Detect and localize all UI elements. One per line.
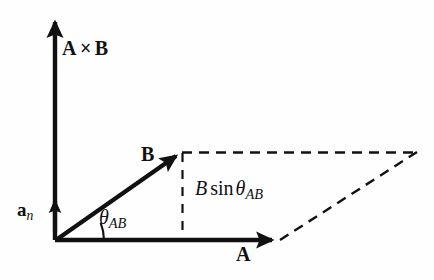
- cross-product-label: A×B: [62, 38, 109, 58]
- cross-product-vector-a-text: A: [62, 37, 77, 59]
- multiplication-sign-icon: ×: [77, 37, 95, 59]
- projection-magnitude-text: B: [195, 177, 207, 199]
- projection-label: BsinθAB: [195, 178, 263, 201]
- angle-label: θAB: [99, 207, 126, 230]
- vector-a-label: A: [236, 244, 250, 264]
- angle-symbol-text: θ: [99, 206, 109, 228]
- cross-product-figure: A×B an B A θAB BsinθAB: [0, 0, 434, 280]
- unit-normal-label: an: [17, 200, 33, 223]
- vector-b-label: B: [141, 144, 154, 164]
- unit-normal-base-text: a: [17, 199, 27, 220]
- dashed-slant-edge: [280, 152, 417, 240]
- projection-function-text: sin: [207, 177, 235, 199]
- projection-angle-subscript-text: AB: [245, 186, 263, 202]
- angle-subscript-text: AB: [109, 215, 127, 231]
- cross-product-vector-b-text: B: [95, 37, 109, 59]
- unit-normal-subscript-text: n: [27, 208, 34, 223]
- projection-angle-symbol-text: θ: [236, 177, 246, 199]
